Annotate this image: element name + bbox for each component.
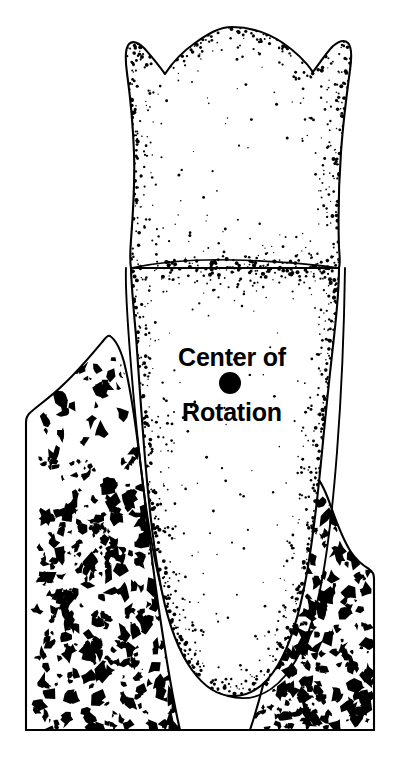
tooth-crown xyxy=(126,27,352,268)
anatomical-diagram: Center of Rotation xyxy=(0,0,397,781)
center-of-rotation-dot xyxy=(219,372,241,394)
tooth-rotation-figure: Center of Rotation xyxy=(0,0,397,781)
center-of-rotation-label-line2: Rotation xyxy=(182,398,282,426)
center-of-rotation-label-line1: Center of xyxy=(178,343,287,371)
